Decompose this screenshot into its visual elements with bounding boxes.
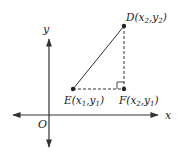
y-axis-label: y — [42, 23, 50, 36]
point-F — [122, 87, 126, 91]
label-E: E(x1,y1) — [63, 94, 104, 108]
coordinate-diagram: y x O D(x2,y2) E(x1,y1) F(x2,y1) — [0, 0, 182, 157]
x-axis-label: x — [165, 109, 172, 122]
point-E — [71, 87, 75, 91]
origin-label: O — [38, 118, 47, 131]
segment-ED — [73, 26, 124, 89]
point-D — [122, 24, 126, 28]
label-D: D(x2,y2) — [125, 11, 167, 25]
label-F: F(x2,y1) — [118, 94, 159, 108]
